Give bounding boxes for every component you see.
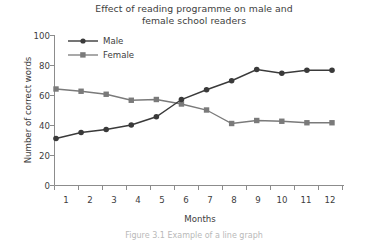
data-point <box>329 67 335 73</box>
legend-label-female: Female <box>103 50 134 60</box>
data-point <box>229 121 234 126</box>
y-tick-label-100: 100 <box>24 31 50 41</box>
data-point <box>304 120 309 125</box>
data-point <box>128 122 134 128</box>
data-point <box>279 119 284 124</box>
data-point <box>53 136 59 142</box>
axes <box>55 35 345 186</box>
y-tick-label-60: 60 <box>24 91 50 101</box>
data-point <box>279 70 285 76</box>
data-point <box>103 92 108 97</box>
y-tick-label-40: 40 <box>24 121 50 131</box>
x-tick-label-6: 6 <box>176 195 196 205</box>
y-tick-label-0: 0 <box>24 181 50 191</box>
series-female <box>53 86 334 126</box>
y-tick-label-20: 20 <box>24 151 50 161</box>
chart-title: Effect of reading programme on male and … <box>44 3 344 27</box>
x-tick-label-12: 12 <box>320 195 340 205</box>
y-tick-label-80: 80 <box>24 61 50 71</box>
data-point <box>154 97 159 102</box>
line-chart-figure: Effect of reading programme on male and … <box>0 0 388 240</box>
data-point <box>204 107 209 112</box>
data-point <box>103 127 109 133</box>
x-tick-label-7: 7 <box>200 195 220 205</box>
data-point <box>229 78 235 84</box>
x-tick-label-5: 5 <box>152 195 172 205</box>
y-axis-title: Number of correct words <box>23 35 33 185</box>
markers-female <box>53 86 334 126</box>
figure-caption: Figure 3.1 Example of a line graph <box>0 231 388 240</box>
legend-label-male: Male <box>103 36 123 46</box>
data-point <box>78 130 84 136</box>
legend-marker-female <box>80 52 85 57</box>
data-point <box>329 120 334 125</box>
data-point <box>254 118 259 123</box>
x-tick-label-9: 9 <box>248 195 268 205</box>
data-point <box>204 87 210 93</box>
series-male <box>53 67 335 142</box>
data-point <box>154 114 160 120</box>
legend-swatches <box>68 38 98 57</box>
x-axis-ticks <box>55 186 343 191</box>
chart-title-line-1: Effect of reading programme on male and <box>44 3 344 15</box>
x-tick-label-8: 8 <box>224 195 244 205</box>
x-tick-label-1: 1 <box>56 195 76 205</box>
x-tick-label-2: 2 <box>80 195 100 205</box>
legend-marker-male <box>80 38 85 43</box>
x-tick-label-10: 10 <box>272 195 292 205</box>
x-axis-title: Months <box>56 214 344 224</box>
x-tick-label-4: 4 <box>128 195 148 205</box>
x-tick-label-3: 3 <box>104 195 124 205</box>
data-point <box>179 97 185 103</box>
data-point <box>254 67 260 73</box>
data-point <box>53 86 58 91</box>
chart-title-line-2: female school readers <box>44 15 344 27</box>
data-point <box>129 98 134 103</box>
data-point <box>304 67 310 73</box>
data-point <box>78 89 83 94</box>
x-tick-label-11: 11 <box>296 195 316 205</box>
y-axis-ticks <box>50 36 55 186</box>
